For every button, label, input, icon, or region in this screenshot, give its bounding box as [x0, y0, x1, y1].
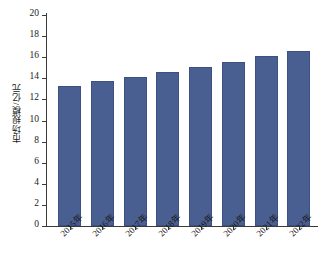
bar-chart: 市场规模/亿元 20181614121086420 2015年2016年2017…	[0, 0, 330, 270]
y-tick-label: 14	[30, 71, 40, 81]
bar	[91, 81, 114, 226]
bar	[58, 86, 81, 226]
bar	[222, 62, 245, 226]
y-tick-label: 10	[30, 114, 40, 124]
bar	[124, 77, 147, 226]
y-tick-label: 20	[30, 8, 40, 18]
y-axis-title: 市场规模/亿元	[6, 0, 24, 226]
bar	[156, 72, 179, 226]
y-tick-label: 4	[34, 177, 39, 187]
bar-series	[46, 15, 318, 226]
y-tick-label: 8	[34, 135, 39, 145]
y-tick-mark	[42, 226, 46, 227]
x-axis-line	[46, 226, 318, 227]
bar	[287, 51, 310, 226]
plot-area: 20181614121086420	[46, 15, 318, 226]
bar	[255, 56, 278, 226]
y-tick-label: 6	[34, 156, 39, 166]
y-tick-label: 12	[30, 92, 40, 102]
bar	[189, 67, 212, 226]
y-tick-label: 18	[30, 29, 40, 39]
y-tick-label: 16	[30, 50, 40, 60]
y-axis-title-text: 市场规模/亿元	[9, 83, 22, 143]
y-tick-label: 0	[34, 219, 39, 229]
y-tick-label: 2	[34, 198, 39, 208]
